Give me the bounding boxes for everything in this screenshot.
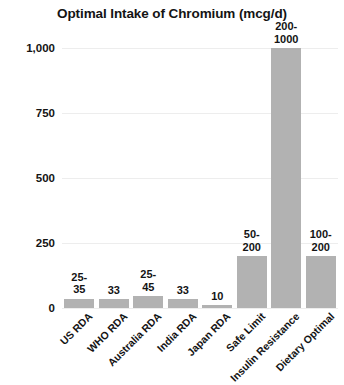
bar[interactable] <box>64 299 94 308</box>
bar[interactable] <box>237 256 267 308</box>
x-axis: US RDAWHO RDAAustralia RDAIndia RDAJapan… <box>62 310 344 385</box>
bar-value-label: 100- 200 <box>295 228 344 253</box>
plot-area: 25- 353325- 45331050- 200200- 1000100- 2… <box>62 48 338 308</box>
bar[interactable] <box>271 48 301 308</box>
bar[interactable] <box>99 299 129 308</box>
x-tick-label: US RDA <box>1 310 94 385</box>
bar-value-label: 200- 1000 <box>260 20 312 45</box>
bar-value-label: 10 <box>191 290 243 303</box>
bar[interactable] <box>202 305 232 308</box>
bar-value-label: 50- 200 <box>226 228 278 253</box>
bar[interactable] <box>133 296 163 308</box>
chart-container: Optimal Intake of Chromium (mcg/d) 02505… <box>0 0 344 385</box>
gridline <box>62 308 338 309</box>
chart-title: Optimal Intake of Chromium (mcg/d) <box>0 6 344 21</box>
y-tick-label: 0 <box>0 302 55 314</box>
y-tick-label: 250 <box>0 237 55 249</box>
bar[interactable] <box>306 256 336 308</box>
y-axis: 02505007501,000 <box>0 40 55 316</box>
y-tick-label: 500 <box>0 172 55 184</box>
y-tick-label: 750 <box>0 107 55 119</box>
y-tick-label: 1,000 <box>0 42 55 54</box>
